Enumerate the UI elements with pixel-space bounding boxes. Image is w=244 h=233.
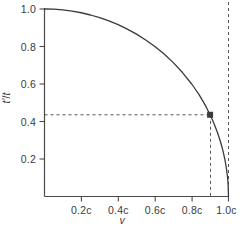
y-axis-title-denominator: t <box>0 93 12 96</box>
y-tick-label-2: 0.8 <box>4 41 36 53</box>
y-axis-title-numerator: t′ <box>0 98 12 103</box>
x-axis-title: v <box>0 214 244 226</box>
y-axis-title-separator: / <box>0 96 12 99</box>
y-axis-title: t′/t <box>0 78 12 118</box>
y-axis-ticks <box>40 9 45 159</box>
time-dilation-chart: 1.0 0.8 0.6 0.4 0.2 0.2c 0.4c 0.6c 0.8c … <box>0 0 244 233</box>
marked-point-square <box>207 112 213 118</box>
plot-canvas <box>0 0 244 233</box>
x-axis-ticks <box>81 197 228 202</box>
time-dilation-curve <box>45 9 229 197</box>
y-tick-label-5: 0.2 <box>4 153 36 165</box>
y-tick-label-1: 1.0 <box>4 3 36 15</box>
